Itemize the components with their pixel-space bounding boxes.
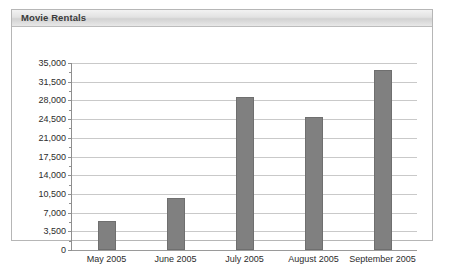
bar-august-2005[interactable] — [305, 117, 323, 250]
bar-may-2005[interactable] — [98, 221, 116, 250]
gridline — [72, 63, 417, 64]
gridline — [72, 250, 417, 251]
x-axis-tick-label: May 2005 — [87, 254, 127, 264]
bar-june-2005[interactable] — [167, 198, 185, 250]
panel-titlebar: Movie Rentals — [12, 10, 432, 27]
y-axis-tick-label: 28,000 — [38, 95, 66, 105]
y-axis-tick-label: 7,000 — [43, 208, 66, 218]
y-axis-tick-label: 35,000 — [38, 58, 66, 68]
y-axis-tick-label: 31,500 — [38, 77, 66, 87]
bar-september-2005[interactable] — [374, 70, 392, 250]
x-axis-tick-label: September 2005 — [349, 254, 416, 264]
plot-area — [72, 63, 417, 250]
y-axis-tick-label: 10,500 — [38, 189, 66, 199]
y-axis-tick-label: 21,000 — [38, 133, 66, 143]
page-title: Movie Rentals — [21, 12, 86, 23]
x-axis-tick-label: June 2005 — [154, 254, 196, 264]
y-axis-tick-label: 24,500 — [38, 114, 66, 124]
y-axis-tick-label: 3,500 — [43, 226, 66, 236]
gridline — [72, 82, 417, 83]
y-axis-tick-label: 17,500 — [38, 152, 66, 162]
y-axis-tick-label: 14,000 — [38, 170, 66, 180]
bar-chart: 03,5007,00010,50014,00017,50021,00024,50… — [12, 27, 432, 240]
chart-panel: Movie Rentals 03,5007,00010,50014,00017,… — [11, 9, 433, 241]
y-axis-labels: 03,5007,00010,50014,00017,50021,00024,50… — [12, 63, 66, 250]
x-axis-tick-label: August 2005 — [288, 254, 339, 264]
bar-july-2005[interactable] — [236, 97, 254, 250]
x-axis-tick-label: July 2005 — [225, 254, 264, 264]
y-axis-tick-label: 0 — [61, 245, 66, 255]
